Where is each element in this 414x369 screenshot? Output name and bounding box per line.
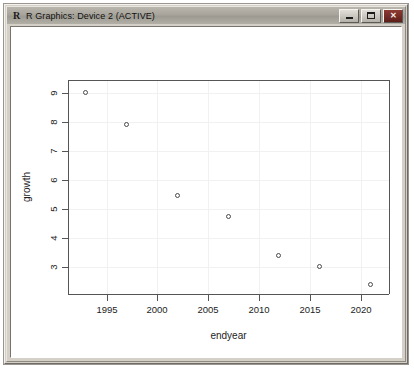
- grid-line-horizontal: [68, 93, 389, 94]
- y-axis-tick-label: 4: [48, 235, 59, 240]
- x-axis-tick-label: 2000: [146, 304, 167, 315]
- plot-border-right: [389, 80, 390, 294]
- plot-border-top: [68, 80, 389, 81]
- y-axis-tick-label: 7: [48, 148, 59, 153]
- close-icon: ✕: [390, 12, 397, 20]
- scatter-plot: 1995200020052010201520203456789endyeargr…: [11, 27, 402, 358]
- data-point: [124, 122, 129, 127]
- y-axis-title: growth: [21, 172, 32, 202]
- maximize-button[interactable]: [361, 9, 381, 23]
- data-point: [83, 90, 88, 95]
- x-axis-tick: [310, 295, 311, 301]
- x-axis-tick-label: 2020: [350, 304, 371, 315]
- y-axis-tick: [62, 238, 68, 239]
- grid-line-vertical: [157, 80, 158, 294]
- grid-line-horizontal: [68, 209, 389, 210]
- data-point: [317, 264, 322, 269]
- plot-border-bottom: [68, 294, 389, 295]
- maximize-icon: [367, 12, 375, 19]
- r-logo-icon: R: [10, 9, 23, 22]
- y-axis-tick: [62, 209, 68, 210]
- grid-line-horizontal: [68, 267, 389, 268]
- grid-line-horizontal: [68, 122, 389, 123]
- y-axis-tick: [62, 93, 68, 94]
- data-point: [368, 282, 373, 287]
- x-axis-tick-label: 1995: [96, 304, 117, 315]
- data-point: [276, 253, 281, 258]
- grid-line-vertical: [107, 80, 108, 294]
- x-axis-title: endyear: [210, 330, 246, 341]
- x-axis-tick: [157, 295, 158, 301]
- grid-line-vertical: [208, 80, 209, 294]
- data-point: [175, 193, 180, 198]
- y-axis-tick-label: 5: [48, 206, 59, 211]
- y-axis-tick: [62, 267, 68, 268]
- x-axis-tick-label: 2010: [248, 304, 269, 315]
- grid-line-horizontal: [68, 238, 389, 239]
- y-axis-tick-label: 3: [48, 264, 59, 269]
- plot-canvas: 1995200020052010201520203456789endyeargr…: [10, 26, 402, 358]
- y-axis-tick-label: 9: [48, 90, 59, 95]
- grid-line-horizontal: [68, 151, 389, 152]
- grid-line-vertical: [361, 80, 362, 294]
- window-title: R Graphics: Device 2 (ACTIVE): [26, 11, 339, 21]
- y-axis-tick: [62, 151, 68, 152]
- grid-line-vertical: [259, 80, 260, 294]
- grid-line-horizontal: [68, 180, 389, 181]
- title-bar[interactable]: R R Graphics: Device 2 (ACTIVE) ✕: [7, 7, 405, 24]
- x-axis-tick-label: 2005: [197, 304, 218, 315]
- y-axis-tick: [62, 180, 68, 181]
- y-axis-tick: [62, 122, 68, 123]
- x-axis-tick-label: 2015: [299, 304, 320, 315]
- plot-border-left: [68, 80, 69, 294]
- grid-line-vertical: [310, 80, 311, 294]
- x-axis-tick: [107, 295, 108, 301]
- data-point: [226, 214, 231, 219]
- minimize-button[interactable]: [339, 9, 359, 23]
- y-axis-tick-label: 8: [48, 119, 59, 124]
- x-axis-tick: [208, 295, 209, 301]
- r-graphics-window: R R Graphics: Device 2 (ACTIVE) ✕ 199520…: [4, 4, 408, 364]
- x-axis-tick: [361, 295, 362, 301]
- close-button[interactable]: ✕: [383, 9, 403, 23]
- y-axis-tick-label: 6: [48, 177, 59, 182]
- minimize-icon: [346, 17, 353, 19]
- x-axis-tick: [259, 295, 260, 301]
